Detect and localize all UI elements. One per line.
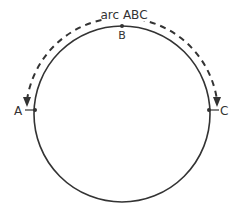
point-b-label: B	[118, 29, 126, 42]
circle	[34, 26, 210, 202]
point-c	[207, 108, 211, 112]
arrow-left-icon	[23, 97, 31, 107]
point-c-label: C	[220, 104, 228, 118]
point-a	[33, 108, 37, 112]
point-a-label: A	[14, 104, 23, 118]
point-b	[120, 24, 124, 28]
arc-diagram: arc ABC B A C	[0, 0, 240, 211]
arc-label: arc ABC	[100, 8, 147, 22]
